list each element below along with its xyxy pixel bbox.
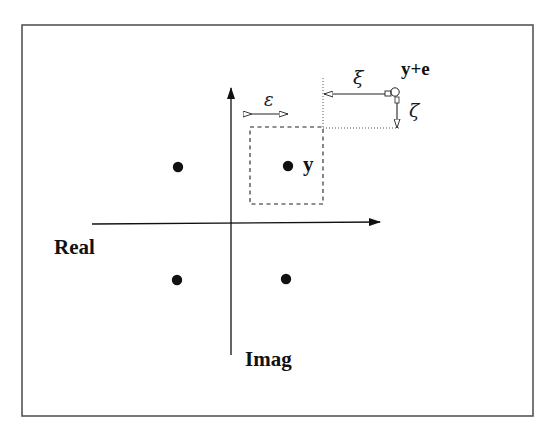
constellation-point (281, 274, 291, 284)
constellation-point (173, 162, 183, 172)
zeta-arrow-tail-box (395, 97, 399, 103)
constellation-diagram: Real Imag y ε ξ y+e ζ (0, 0, 552, 440)
constellation-point-y (283, 161, 293, 171)
xi-arrow-tail-box (385, 91, 391, 96)
point-y-label: y (303, 152, 314, 176)
zeta-label: ζ (409, 99, 421, 121)
xi-label: ξ (353, 66, 365, 88)
constellation-point (172, 275, 182, 285)
imag-axis-label: Imag (245, 347, 292, 371)
real-axis-label: Real (54, 235, 95, 259)
perturbed-point-marker (391, 88, 399, 96)
perturbed-point-label: y+e (401, 58, 430, 79)
epsilon-label: ε (264, 89, 274, 110)
real-axis (92, 222, 380, 224)
